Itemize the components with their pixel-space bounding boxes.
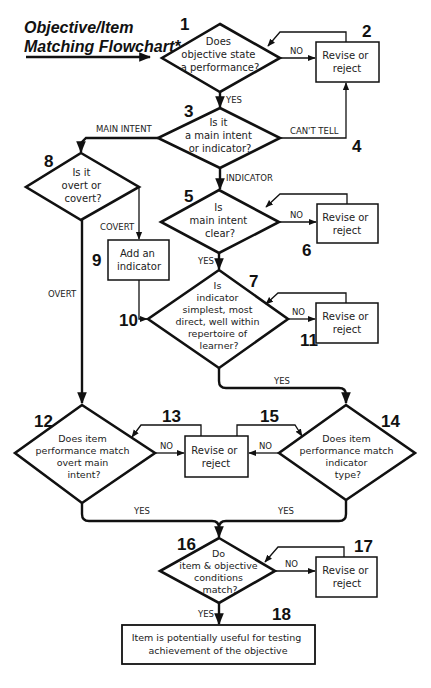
edge-label-12-yes: YES — [133, 506, 150, 516]
edge-label-3-cant-tell: CAN'T TELL — [290, 126, 339, 136]
decision-14: 14 Does item performance match indicator… — [279, 405, 415, 500]
svg-text:17: 17 — [354, 537, 373, 556]
svg-text:14: 14 — [381, 412, 400, 431]
decision-5: 5 Is main intent clear? — [161, 187, 279, 253]
svg-text:6: 6 — [302, 241, 311, 260]
svg-text:7: 7 — [249, 272, 258, 291]
edge-label-3-main-intent: MAIN INTENT — [96, 124, 153, 134]
edge-label-1-no: NO — [290, 46, 303, 56]
decision-1: 1 Does objective state a performance? — [162, 15, 280, 92]
decision-16: 16 Do item & objective conditions match? — [160, 535, 275, 603]
svg-text:12: 12 — [34, 412, 53, 431]
node-number-4: 4 — [352, 137, 362, 156]
edge-label-7-yes: YES — [273, 376, 290, 386]
edge-label-7-no: NO — [292, 307, 305, 317]
edge-label-1-yes: YES — [225, 95, 242, 105]
svg-text:16: 16 — [177, 535, 196, 554]
node-number-13: 13 — [162, 407, 181, 426]
flowchart: 1 Does objective state a performance? NO… — [0, 0, 431, 688]
process-17: 17 Revise or reject — [316, 537, 377, 597]
svg-text:18: 18 — [272, 605, 291, 624]
edge-label-5-yes: YES — [197, 256, 214, 266]
svg-text:2: 2 — [362, 22, 371, 41]
decision-8: 8 Is it overt or covert? — [26, 152, 139, 220]
decision-7: 7 Is indicator simplest, most direct, we… — [148, 270, 288, 368]
edge-label-8-covert: COVERT — [100, 222, 135, 232]
edge-label-14-yes: YES — [277, 506, 294, 516]
edge-label-12-no: NO — [160, 441, 173, 451]
edge-label-5-no: NO — [290, 210, 303, 220]
svg-text:5: 5 — [184, 187, 193, 206]
process-11: 11 Revise or reject — [300, 303, 378, 350]
edge-label-16-yes: YES — [197, 609, 214, 619]
node-number-10: 10 — [119, 311, 138, 330]
svg-text:8: 8 — [44, 152, 53, 171]
process-2: 2 Revise or reject — [316, 22, 379, 82]
node-number-1: 1 — [180, 15, 189, 34]
decision-3: 3 Is it a main intent or indicator? — [158, 102, 280, 168]
edge-label-16-no: NO — [285, 559, 298, 569]
svg-text:3: 3 — [184, 102, 193, 121]
process-6: 6 Revise or reject — [302, 204, 378, 260]
svg-text:9: 9 — [92, 251, 101, 270]
process-9: 9 Add an indicator — [92, 240, 169, 280]
decision-12: 12 Does item performance match overt mai… — [15, 405, 155, 503]
edge-label-14-no: NO — [259, 441, 272, 451]
node-number-15: 15 — [260, 407, 279, 426]
edge-label-3-indicator: INDICATOR — [226, 173, 273, 183]
edge-label-8-overt: OVERT — [48, 289, 77, 299]
process-13-15: Revise or reject — [185, 436, 248, 477]
svg-text:11: 11 — [300, 331, 318, 350]
